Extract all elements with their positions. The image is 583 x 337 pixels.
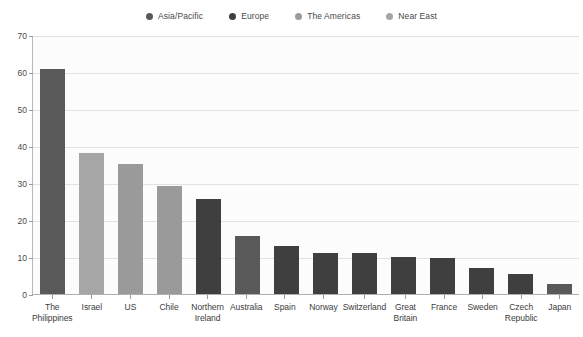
x-tick-mark — [130, 295, 131, 299]
x-tick-mark — [521, 295, 522, 299]
x-tick-mark — [323, 295, 324, 299]
x-tick-mark — [482, 295, 483, 299]
x-tick-label: US — [125, 302, 137, 313]
x-axis-slot: Chile — [150, 295, 189, 323]
y-tick-label: 60 — [18, 68, 27, 78]
legend-item-near-east[interactable]: Near East — [386, 11, 437, 21]
chart-legend: Asia/PacificEuropeThe AmericasNear East — [0, 11, 583, 21]
x-axis-slot: Czech Republic — [502, 295, 541, 323]
bar[interactable] — [274, 246, 298, 295]
bar[interactable] — [118, 164, 142, 295]
x-tick-label: Chile — [159, 302, 178, 313]
x-axis-slot: US — [111, 295, 150, 323]
bar-slot — [228, 36, 267, 295]
x-tick-label: France — [431, 302, 457, 313]
bar-slot — [72, 36, 111, 295]
x-axis-slot: Great Britain — [386, 295, 425, 323]
y-tick-label: 10 — [18, 253, 27, 263]
bar[interactable] — [79, 153, 103, 295]
y-tick-label: 40 — [18, 142, 27, 152]
x-tick-mark — [52, 295, 53, 299]
x-axis-slot: Switzerland — [343, 295, 386, 323]
x-axis-slot: Israel — [73, 295, 112, 323]
bar-slot — [267, 36, 306, 295]
bar[interactable] — [469, 268, 493, 295]
x-tick-label: Great Britain — [394, 302, 418, 323]
x-tick-mark — [559, 295, 560, 299]
bar-slot — [111, 36, 150, 295]
x-tick-label: Switzerland — [343, 302, 386, 313]
x-tick-label: Israel — [82, 302, 103, 313]
y-tick-label: 20 — [18, 216, 27, 226]
bar[interactable] — [508, 274, 532, 295]
x-tick-label: The Philippines — [32, 302, 73, 323]
x-tick-label: Sweden — [467, 302, 497, 313]
bar-slot — [462, 36, 501, 295]
y-tick-label: 30 — [18, 179, 27, 189]
bar[interactable] — [157, 186, 181, 295]
legend-item-the-americas[interactable]: The Americas — [295, 11, 360, 21]
x-tick-label: Czech Republic — [505, 302, 538, 323]
legend-item-label: Near East — [398, 11, 437, 21]
y-tick-label: 50 — [18, 105, 27, 115]
x-tick-label: Japan — [548, 302, 571, 313]
bar-slot — [189, 36, 228, 295]
legend-swatch-icon — [295, 13, 302, 20]
x-axis-slot: France — [425, 295, 464, 323]
bar[interactable] — [196, 199, 220, 295]
x-tick-mark — [364, 295, 365, 299]
x-tick-label: Northern Ireland — [191, 302, 224, 323]
legend-swatch-icon — [146, 13, 153, 20]
x-tick-label: Norway — [309, 302, 338, 313]
bar-slot — [423, 36, 462, 295]
x-axis-slot: Japan — [540, 295, 579, 323]
x-tick-mark — [246, 295, 247, 299]
x-tick-mark — [91, 295, 92, 299]
bar[interactable] — [313, 253, 337, 295]
x-tick-mark — [284, 295, 285, 299]
y-tick-label: 70 — [18, 31, 27, 41]
x-axis-slot: Australia — [227, 295, 266, 323]
x-axis-labels: The PhilippinesIsraelUSChileNorthern Ire… — [32, 295, 579, 323]
x-tick-label: Spain — [274, 302, 296, 313]
x-tick-mark — [207, 295, 208, 299]
plot-area: 010203040506070 — [32, 36, 579, 295]
bar[interactable] — [40, 69, 64, 295]
legend-item-label: Asia/Pacific — [158, 11, 203, 21]
bar[interactable] — [352, 253, 376, 295]
legend-item-label: The Americas — [307, 11, 360, 21]
x-axis-slot: Norway — [304, 295, 343, 323]
bar-slot — [501, 36, 540, 295]
legend-item-europe[interactable]: Europe — [229, 11, 269, 21]
bar-chart: Asia/PacificEuropeThe AmericasNear East … — [0, 0, 583, 337]
bar[interactable] — [235, 236, 259, 295]
legend-swatch-icon — [229, 13, 236, 20]
x-axis-slot: The Philippines — [32, 295, 73, 323]
x-axis-slot: Northern Ireland — [188, 295, 227, 323]
bar[interactable] — [391, 257, 415, 295]
legend-swatch-icon — [386, 13, 393, 20]
bar-slot — [150, 36, 189, 295]
bar-slot — [540, 36, 579, 295]
x-axis-slot: Sweden — [463, 295, 502, 323]
bar[interactable] — [430, 258, 454, 295]
bar-slot — [345, 36, 384, 295]
y-tick-label: 0 — [22, 290, 27, 300]
bar-slot — [384, 36, 423, 295]
bars-container — [33, 36, 579, 295]
x-axis-slot: Spain — [266, 295, 305, 323]
legend-item-asia-pacific[interactable]: Asia/Pacific — [146, 11, 203, 21]
x-tick-label: Australia — [230, 302, 263, 313]
legend-item-label: Europe — [241, 11, 269, 21]
x-tick-mark — [405, 295, 406, 299]
bar-slot — [33, 36, 72, 295]
x-tick-mark — [169, 295, 170, 299]
x-tick-mark — [444, 295, 445, 299]
bar-slot — [306, 36, 345, 295]
